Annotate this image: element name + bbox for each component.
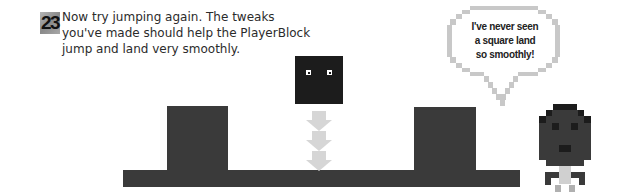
left-pillar (167, 106, 228, 170)
player-eye-left-icon (306, 70, 311, 75)
instruction-text: Now try jumping again. The tweaks you've… (62, 9, 292, 57)
speech-line: so smoothly! (462, 48, 548, 62)
instruction-line: you've made should help the PlayerBlock (62, 25, 292, 41)
player-eye-right-icon (327, 70, 332, 75)
speech-line: a square land (462, 34, 548, 48)
instruction-line: jump and land very smoothly. (62, 41, 292, 57)
instruction-line: Now try jumping again. The tweaks (62, 9, 292, 25)
speech-bubble-text: I've never seen a square land so smoothl… (462, 20, 548, 62)
player-block (295, 56, 343, 104)
ground-platform (123, 170, 520, 187)
down-arrow-icon (306, 111, 332, 131)
speech-line: I've never seen (462, 20, 548, 34)
pixel-character-icon (535, 100, 615, 192)
down-arrow-icon (306, 151, 332, 171)
step-number-badge: 23 (40, 12, 60, 34)
down-arrow-icon (306, 131, 332, 151)
right-pillar (414, 107, 476, 170)
